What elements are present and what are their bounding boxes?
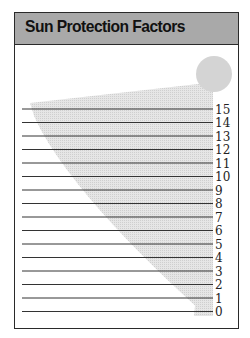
spf-label-1: 1 <box>215 292 223 306</box>
spf-label-14: 14 <box>215 116 231 130</box>
spf-label-15: 15 <box>215 103 230 117</box>
spf-label-10: 10 <box>215 170 230 184</box>
spf-diagram: 1514131211109876543210 <box>0 0 250 338</box>
spf-label-7: 7 <box>215 211 223 225</box>
spf-label-11: 11 <box>215 157 230 171</box>
spf-label-4: 4 <box>215 251 223 265</box>
spf-label-0: 0 <box>215 305 223 319</box>
spf-label-6: 6 <box>215 224 223 238</box>
spf-label-3: 3 <box>215 265 223 279</box>
sun-rays <box>30 84 213 316</box>
spf-label-13: 13 <box>215 130 230 144</box>
sun-icon <box>196 56 232 92</box>
spf-label-12: 12 <box>215 143 230 157</box>
spf-label-8: 8 <box>215 197 223 211</box>
spf-label-5: 5 <box>215 238 223 252</box>
spf-label-9: 9 <box>215 184 223 198</box>
spf-label-2: 2 <box>215 278 223 292</box>
